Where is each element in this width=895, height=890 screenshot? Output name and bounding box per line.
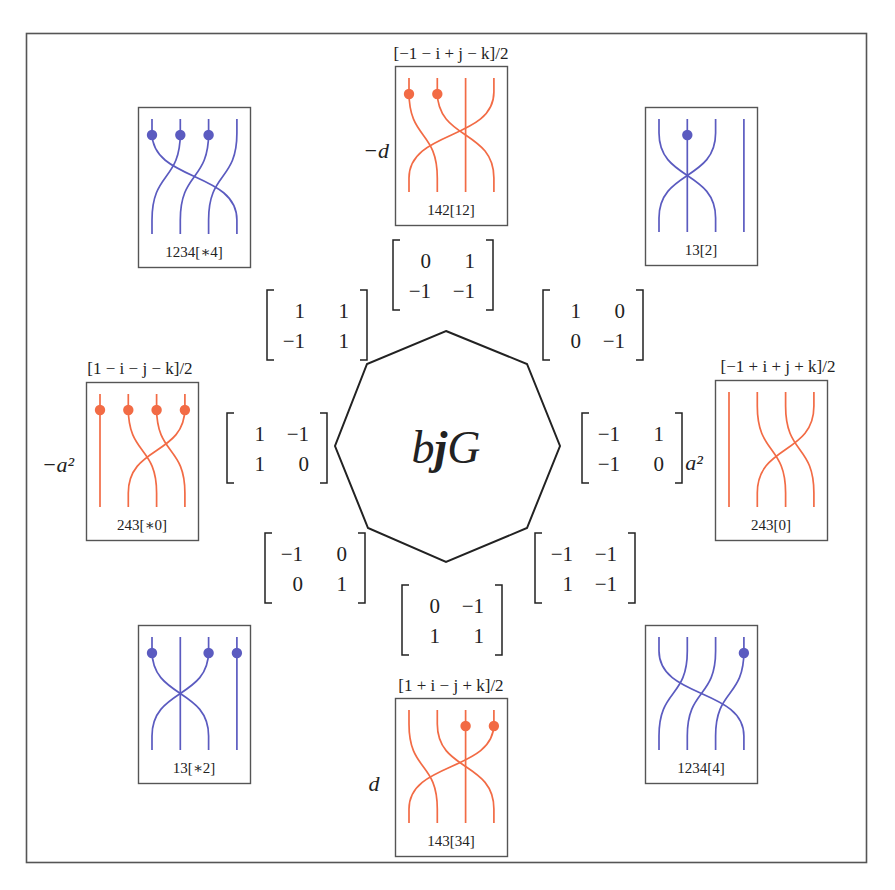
matrix-entry: 1 [337, 572, 348, 596]
strand-dot-icon [682, 130, 692, 140]
right-bracket [675, 413, 682, 483]
strand-dot-icon [232, 648, 242, 658]
matrix-right: −11−10 [582, 413, 682, 483]
strand-dot-icon [460, 721, 470, 731]
matrix-top-right: 100−1 [543, 290, 643, 360]
strand-dot-icon [123, 405, 133, 415]
matrix-entry: −1 [281, 542, 303, 566]
braid-box-top: 142[12] [396, 67, 508, 226]
quaternion-left: [1 − i − j − k]/2 [87, 359, 192, 378]
matrix-entry: −1 [598, 452, 620, 476]
matrix-entry: 1 [339, 299, 350, 323]
left-bracket [227, 413, 234, 483]
quaternion-bottom: [1 + i − j + k]/2 [398, 676, 503, 695]
right-bracket [628, 533, 635, 603]
left-bracket [543, 290, 550, 360]
matrix-entry: 0 [615, 299, 626, 323]
coefficient-left: −a² [42, 452, 75, 477]
box-caption: 143[34] [427, 833, 475, 849]
matrix-entry: −1 [462, 594, 484, 618]
strand-dot-icon [203, 648, 213, 658]
right-bracket [358, 533, 365, 603]
quaternion-right: [−1 + i + j + k]/2 [721, 357, 836, 376]
matrix-entry: 0 [299, 452, 310, 476]
strand-dot-icon [147, 130, 157, 140]
left-bracket [267, 290, 274, 360]
matrix-entry: 0 [654, 452, 665, 476]
matrix-entry: 0 [293, 572, 304, 596]
matrix-entry: −1 [453, 279, 475, 303]
braid-box-left: 243[∗0] [87, 383, 199, 541]
braid-box-bottom: 143[34] [396, 699, 508, 857]
strand-dot-icon [489, 721, 499, 731]
quaternion-top: [−1 − i + j − k]/2 [394, 44, 509, 63]
right-bracket [486, 240, 493, 310]
left-bracket [582, 413, 589, 483]
matrix-entry: 1 [571, 299, 582, 323]
right-bracket [636, 290, 643, 360]
matrix-entry: 1 [474, 624, 485, 648]
coefficient-top: −d [363, 138, 390, 163]
matrix-top: 01−1−1 [393, 240, 493, 310]
matrix-left: 1−110 [227, 413, 327, 483]
matrix-entry: 1 [563, 572, 574, 596]
matrix-entry: −1 [283, 329, 305, 353]
matrix-entry: −1 [598, 422, 620, 446]
matrix-entry: 0 [337, 542, 348, 566]
strand-dot-icon [151, 405, 161, 415]
braid-box-top-left: 1234[∗4] [139, 108, 251, 268]
matrix-entry: 1 [339, 329, 350, 353]
matrix-entry: −1 [595, 542, 617, 566]
left-bracket [535, 533, 542, 603]
matrix-entry: 1 [295, 299, 306, 323]
matrix-entry: −1 [551, 542, 573, 566]
matrix-top-left: 11−11 [267, 290, 367, 360]
box-caption: 1234[∗4] [165, 244, 223, 260]
matrix-entry: 0 [430, 594, 441, 618]
matrix-entry: 1 [430, 624, 441, 648]
strand-dot-icon [203, 130, 213, 140]
right-bracket [495, 585, 502, 655]
braid-box-top-right: 13[2] [646, 108, 758, 266]
matrix-entry: 1 [654, 422, 665, 446]
matrix-entry: −1 [409, 279, 431, 303]
strand-dot-icon [432, 89, 442, 99]
matrix-entry: 0 [421, 249, 432, 273]
strand-dot-icon [739, 648, 749, 658]
braid-box-right: 243[0] [716, 381, 828, 541]
strand-dot-icon [404, 89, 414, 99]
matrix-entry: 1 [255, 422, 266, 446]
matrix-bottom-right: −1−11−1 [535, 533, 635, 603]
matrix-entry: 1 [465, 249, 476, 273]
box-caption: 142[12] [427, 202, 475, 218]
left-bracket [402, 585, 409, 655]
bjG-diagram: bjG 142[12]1234[∗4]13[2]243[∗0]243[0]13[… [0, 0, 895, 890]
left-bracket [265, 533, 272, 603]
box-caption: 243[0] [751, 517, 791, 533]
left-bracket [393, 240, 400, 310]
matrix-entry: −1 [595, 572, 617, 596]
braid-box-bottom-right: 1234[4] [646, 626, 758, 784]
matrix-entry: 1 [255, 452, 266, 476]
strand-dot-icon [175, 130, 185, 140]
matrix-entry: −1 [603, 329, 625, 353]
box-caption: 13[∗2] [173, 760, 216, 776]
svg-text:bjG: bjG [411, 422, 480, 473]
center-label: bjG [411, 422, 480, 473]
strand-dot-icon [95, 405, 105, 415]
strand-dot-icon [147, 648, 157, 658]
matrix-entry: 0 [571, 329, 582, 353]
matrix-bottom-left: −1001 [265, 533, 365, 603]
coefficient-bottom: d [369, 771, 381, 796]
matrix-bottom: 0−111 [402, 585, 502, 655]
matrix-entry: −1 [287, 422, 309, 446]
right-bracket [360, 290, 367, 360]
braid-box-bottom-left: 13[∗2] [139, 626, 251, 784]
coefficient-right: a² [685, 450, 703, 475]
strand-dot-icon [180, 405, 190, 415]
box-caption: 1234[4] [677, 760, 725, 776]
right-bracket [320, 413, 327, 483]
box-caption: 13[2] [685, 242, 718, 258]
box-caption: 243[∗0] [117, 517, 167, 533]
